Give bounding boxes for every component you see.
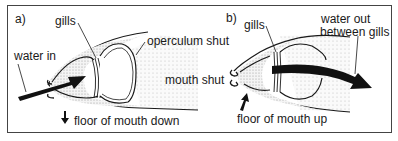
gills-label-a: gills — [55, 15, 76, 28]
water-in-label: water in — [14, 50, 56, 63]
gills-label-b: gills — [244, 19, 265, 32]
mouth-shut-label: mouth shut — [165, 74, 224, 87]
floor-up-label: floor of mouth up — [237, 113, 327, 126]
water-out-label-2: between gills — [320, 26, 389, 39]
floor-down-label: floor of mouth down — [74, 115, 179, 128]
operculum-shut-label: operculum shut — [147, 35, 229, 48]
panel-b-label: b) — [226, 12, 237, 25]
panel-a-label: a) — [15, 13, 26, 26]
